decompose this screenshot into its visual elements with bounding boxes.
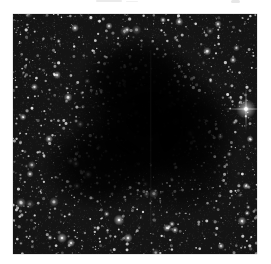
scan-artifact (126, 1, 138, 2)
scan-artifact (96, 0, 122, 2)
scan-artifact (231, 0, 240, 3)
scanned-page (0, 0, 271, 264)
dark-nebula-photograph (13, 14, 257, 254)
star-field-canvas (13, 14, 257, 254)
